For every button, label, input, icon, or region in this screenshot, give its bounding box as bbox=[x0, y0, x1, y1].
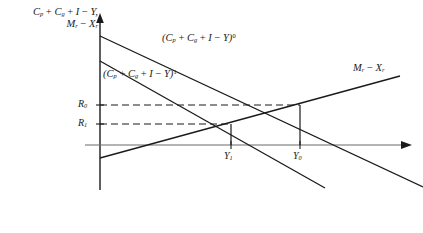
absorption-curve-0-line bbox=[100, 36, 423, 187]
y-axis-label-line1: Cp + Cg + I − Y, bbox=[33, 6, 98, 17]
economics-diagram: Cp + Cg + I − Y, Mr − Xr (Cp + Cg + I − … bbox=[0, 0, 423, 233]
absorption-curve-1-label: (Cp + Cg + I − Y)1 bbox=[103, 68, 177, 80]
y-tick-label-r1: R1 bbox=[78, 117, 87, 129]
y-axis-label-line2: Mr − Xr bbox=[6, 18, 98, 30]
y-axis-label: Cp + Cg + I − Y, Mr − Xr bbox=[6, 6, 98, 30]
y-tick-label-r0: R0 bbox=[78, 98, 87, 110]
absorption-curve-0-label: (Cp + Cg + I − Y)0 bbox=[162, 32, 236, 44]
x-axis-arrowhead bbox=[401, 141, 412, 149]
x-tick-label-y0: Y0 bbox=[293, 150, 302, 162]
trade-balance-line-label: Mr − Xr bbox=[353, 62, 384, 74]
x-tick-label-y1: Y1 bbox=[224, 150, 233, 162]
